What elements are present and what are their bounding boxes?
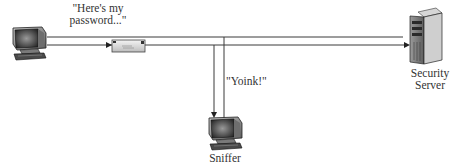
sniffer-label: Sniffer [200, 152, 250, 164]
sniffer-message-label: "Yoink!" [226, 75, 267, 87]
arrow-head-envelope [106, 42, 112, 48]
client-message-line2: password..." [58, 14, 138, 26]
sniffer-computer-icon [209, 117, 242, 150]
client-computer-icon [13, 27, 46, 60]
arrow-head-server [404, 42, 410, 48]
server-label-line2: Server [406, 79, 454, 91]
arrow-head-sniffer [211, 112, 217, 118]
client-message-line1: "Here's my [58, 2, 138, 14]
server-label: Security Server [406, 67, 454, 91]
client-message-label: "Here's my password..." [58, 2, 138, 26]
envelope-icon [112, 40, 145, 52]
diagram-canvas: "Here's my password..." "Yoink!" Securit… [0, 0, 457, 168]
server-icon [410, 8, 442, 64]
server-label-line1: Security [406, 67, 454, 79]
